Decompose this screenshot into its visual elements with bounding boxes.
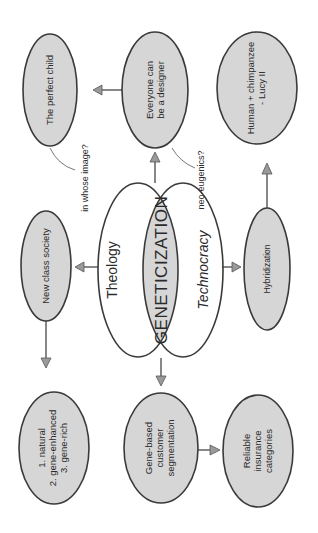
node-label-line2: customer [154, 428, 165, 467]
arrow-designer-to-perfect-child [93, 85, 122, 95]
node-label-line2: 2. gene-enhanced [47, 410, 58, 487]
leader-whose-image [50, 148, 75, 170]
node-perfect-child: The perfect child [23, 34, 77, 146]
center-label: GENETICIZATION [152, 196, 171, 344]
arrow-hybridization-to-human-chimp [262, 163, 272, 208]
geneticization-diagram: GENETICIZATION Theology Technocracy The … [0, 0, 318, 533]
arrow-technocracy-to-hybridization [222, 262, 241, 272]
node-label-line2: - Lucy II [256, 71, 267, 105]
arrow-segmentation-to-insurance [198, 445, 220, 455]
node-label-line1: Human + chimpanzee [245, 42, 256, 135]
arrow-center-to-designer [150, 152, 160, 183]
node-label: New class society [40, 228, 51, 304]
node-reliable-insurance: Reliable insurance categories [223, 395, 293, 507]
arrow-theology-to-new-class [75, 262, 98, 272]
leader-neo-eugenics [172, 148, 195, 168]
annotation-whose-image: in whose image? [80, 144, 90, 212]
node-label: Hybridization [262, 244, 272, 293]
node-label: The perfect child [44, 55, 55, 125]
node-label-line3: segmentation [165, 419, 176, 476]
annotation-neo-eugenics: neo-eugenics? [196, 150, 206, 209]
node-hybridization: Hybridization [244, 208, 290, 330]
node-label-line1: Reliable [241, 434, 252, 468]
node-human-chimpanzee: Human + chimpanzee - Lucy II [217, 32, 297, 144]
theology-label: Theology [104, 241, 120, 299]
node-new-class-society: New class society [21, 211, 71, 321]
node-label-line2: insurance [252, 430, 263, 471]
node-label-line1: Gene-based [143, 422, 154, 474]
node-gene-based-segmentation: Gene-based customer segmentation [124, 393, 198, 503]
node-label-line3: 3. gene-rich [58, 423, 69, 473]
arrow-new-class-to-classes [41, 320, 51, 368]
node-class-levels: 1. natural 2. gene-enhanced 3. gene-rich [19, 392, 89, 504]
technocracy-label: Technocracy [195, 230, 211, 310]
node-label-line1: 1. natural [36, 428, 47, 468]
node-label-line3: categories [263, 429, 274, 473]
arrow-center-to-segmentation [156, 358, 166, 386]
node-everyone-designer: Everyone can be a designer [122, 32, 188, 148]
node-label-line2: be a designer [155, 61, 166, 119]
node-label-line1: Everyone can [144, 61, 155, 119]
